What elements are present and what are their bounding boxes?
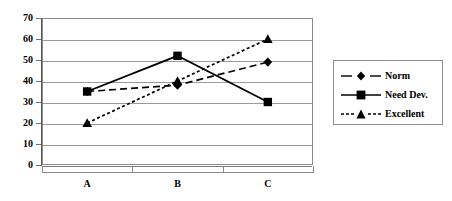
square-marker xyxy=(83,87,91,95)
triangle-marker xyxy=(263,34,273,43)
triangle-marker-icon xyxy=(339,107,383,121)
legend: Norm Need Dev. Excellent xyxy=(333,60,443,125)
triangle-marker xyxy=(82,118,92,127)
legend-label-need-dev: Need Dev. xyxy=(385,89,428,100)
series-excellent xyxy=(82,34,272,127)
triangle-marker xyxy=(173,76,183,85)
square-marker xyxy=(173,52,181,60)
diamond-marker xyxy=(263,58,272,67)
line-chart: 706050403020100 ABC Norm Need xyxy=(0,0,452,201)
square-marker-icon xyxy=(339,88,383,102)
legend-item-excellent[interactable]: Excellent xyxy=(334,104,442,123)
diamond-marker-icon xyxy=(339,69,383,83)
legend-item-norm[interactable]: Norm xyxy=(334,66,442,85)
legend-label-excellent: Excellent xyxy=(385,108,424,119)
legend-item-need-dev[interactable]: Need Dev. xyxy=(334,85,442,104)
square-marker xyxy=(264,98,272,106)
legend-label-norm: Norm xyxy=(385,70,410,81)
